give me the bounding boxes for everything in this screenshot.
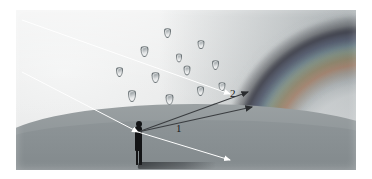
sight-lines [138, 92, 252, 160]
ray-label-2: 2 [230, 88, 236, 99]
sunlight-ray-upper [22, 20, 230, 94]
illustration-plate: 1 2 [16, 10, 356, 170]
sunlight-rays [22, 20, 230, 132]
rainbow-diagram-figure: 1 2 [0, 0, 372, 179]
ray-label-1: 1 [176, 123, 182, 134]
sunlight-ray-lower [22, 72, 138, 132]
ray-overlay [16, 10, 356, 170]
sight-line-horizon [138, 132, 230, 160]
